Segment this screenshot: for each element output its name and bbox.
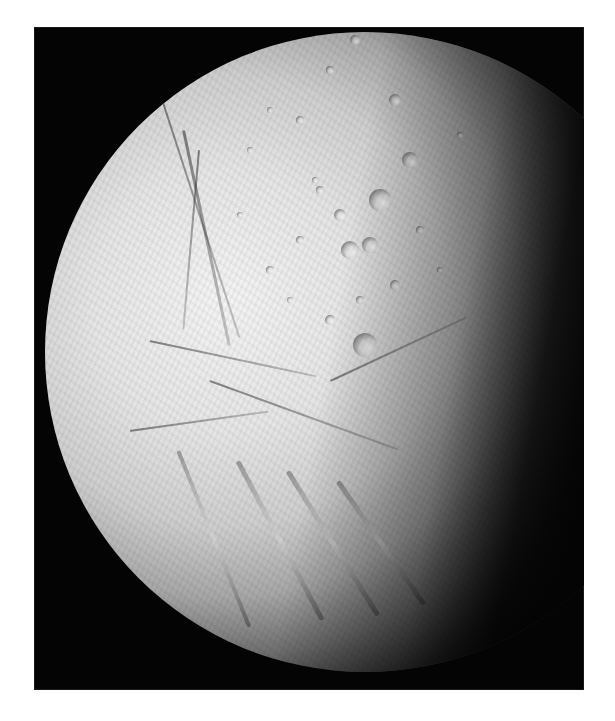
space-background	[34, 27, 584, 690]
enceladus-moon	[45, 32, 584, 672]
terminator-shadow	[45, 32, 584, 672]
